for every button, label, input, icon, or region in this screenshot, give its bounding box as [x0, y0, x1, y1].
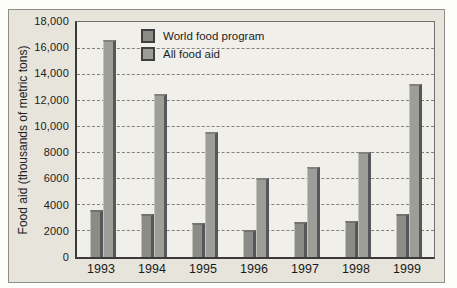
legend: World food program All food aid: [141, 27, 264, 63]
y-tick-label: 10,000: [11, 120, 69, 132]
y-tick-label: 2000: [11, 225, 69, 237]
x-axis-label: 1994: [126, 262, 178, 276]
x-axis-label: 1993: [75, 262, 127, 276]
bar-world-food-program-1996: [243, 230, 256, 257]
chart-figure: Food aid (thousands of metric tons) Worl…: [8, 9, 445, 283]
bar-all-food-aid-1994: [154, 94, 167, 257]
bar-world-food-program-1994: [141, 214, 154, 257]
legend-item-world-food-program: World food program: [141, 27, 264, 44]
bar-all-food-aid-1995: [205, 132, 218, 257]
x-axis-label: 1999: [381, 262, 433, 276]
y-tick-label: 16,000: [11, 41, 69, 53]
legend-item-all-food-aid: All food aid: [141, 45, 264, 62]
y-tick-label: 0: [11, 251, 69, 263]
y-tick-label: 8000: [11, 146, 69, 158]
gridline: [77, 74, 434, 75]
bar-all-food-aid-1996: [256, 178, 269, 257]
bar-world-food-program-1999: [396, 214, 409, 257]
y-tick-label: 14,000: [11, 67, 69, 79]
legend-swatch-world-food-program-icon: [141, 29, 155, 43]
legend-label: All food aid: [163, 48, 220, 60]
x-axis-label: 1995: [177, 262, 229, 276]
legend-swatch-all-food-aid-icon: [141, 47, 155, 61]
bar-all-food-aid-1998: [358, 152, 371, 257]
bar-world-food-program-1995: [192, 223, 205, 257]
x-axis-label: 1998: [330, 262, 382, 276]
bar-world-food-program-1997: [294, 222, 307, 257]
gridline: [77, 152, 434, 153]
x-axis-label: 1997: [279, 262, 331, 276]
plot-area: World food program All food aid: [75, 21, 435, 259]
y-tick-label: 4000: [11, 199, 69, 211]
y-tick-label: 6000: [11, 172, 69, 184]
page: { "chart_data": { "type": "bar", "title"…: [0, 0, 457, 288]
bar-all-food-aid-1997: [307, 167, 320, 257]
bar-all-food-aid-1993: [103, 40, 116, 257]
bar-world-food-program-1998: [345, 221, 358, 257]
y-tick-label: 12,000: [11, 94, 69, 106]
y-tick-label: 18,000: [11, 15, 69, 27]
bar-world-food-program-1993: [90, 210, 103, 257]
gridline: [77, 100, 434, 101]
gridline: [77, 126, 434, 127]
legend-label: World food program: [163, 30, 264, 42]
bar-all-food-aid-1999: [409, 84, 422, 257]
x-axis-label: 1996: [228, 262, 280, 276]
